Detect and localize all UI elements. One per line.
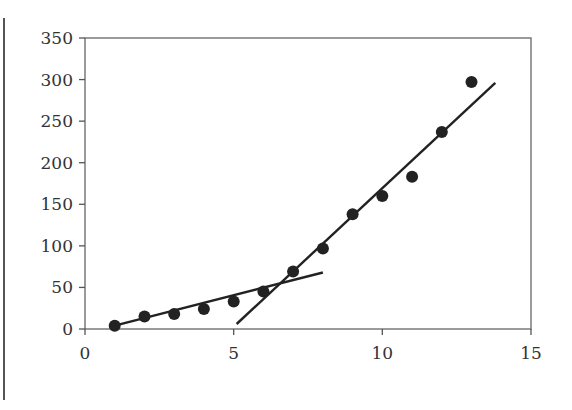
- data-point: [287, 266, 299, 278]
- data-point: [109, 320, 121, 332]
- y-tick-label: 200: [41, 153, 73, 173]
- y-tick-label: 0: [62, 319, 73, 339]
- data-point: [257, 286, 269, 298]
- data-point: [317, 242, 329, 254]
- y-tick-label: 50: [51, 277, 73, 297]
- x-axis: 051015: [80, 329, 542, 363]
- scatter-chart: 050100150200250300350 051015: [0, 0, 572, 410]
- data-point: [436, 126, 448, 138]
- data-point: [228, 296, 240, 308]
- x-tick-label: 10: [372, 343, 394, 363]
- trend-lines: [115, 83, 496, 326]
- data-point: [406, 171, 418, 183]
- y-tick-label: 300: [41, 70, 73, 90]
- data-point: [466, 76, 478, 88]
- plot-area: [85, 38, 531, 329]
- y-axis: 050100150200250300350: [41, 28, 85, 339]
- x-tick-label: 15: [520, 343, 542, 363]
- x-tick-label: 0: [80, 343, 91, 363]
- y-tick-label: 250: [41, 111, 73, 131]
- trend-line-high: [237, 83, 496, 324]
- data-point: [376, 190, 388, 202]
- data-points: [109, 76, 478, 332]
- plot-frame: [85, 38, 531, 329]
- data-point: [198, 303, 210, 315]
- data-point: [347, 208, 359, 220]
- data-point: [168, 308, 180, 320]
- x-tick-label: 5: [228, 343, 239, 363]
- y-tick-label: 150: [41, 194, 73, 214]
- data-point: [139, 311, 151, 323]
- y-tick-label: 350: [41, 28, 73, 48]
- y-tick-label: 100: [41, 236, 73, 256]
